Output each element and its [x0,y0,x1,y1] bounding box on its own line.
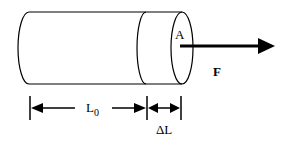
original-length-label: L0 [86,100,99,118]
elongation-label: ΔL [156,122,172,137]
stretched-end-face [171,12,193,84]
dl-right-arrowhead-icon [170,103,180,113]
cylinder [18,12,193,84]
original-end-face [137,12,146,84]
l0-right-arrowhead-icon [134,103,146,113]
cylinder-left-end [18,12,29,84]
l0-left-arrowhead-icon [31,103,43,113]
dl-left-arrowhead-icon [148,103,158,113]
force-arrowhead-icon [258,38,275,54]
elongation-diagram: A F L0 ΔL [0,0,291,146]
dimension-lines [30,96,181,120]
force-label: F [213,64,221,79]
force-arrow [180,38,275,54]
area-label: A [175,27,185,42]
